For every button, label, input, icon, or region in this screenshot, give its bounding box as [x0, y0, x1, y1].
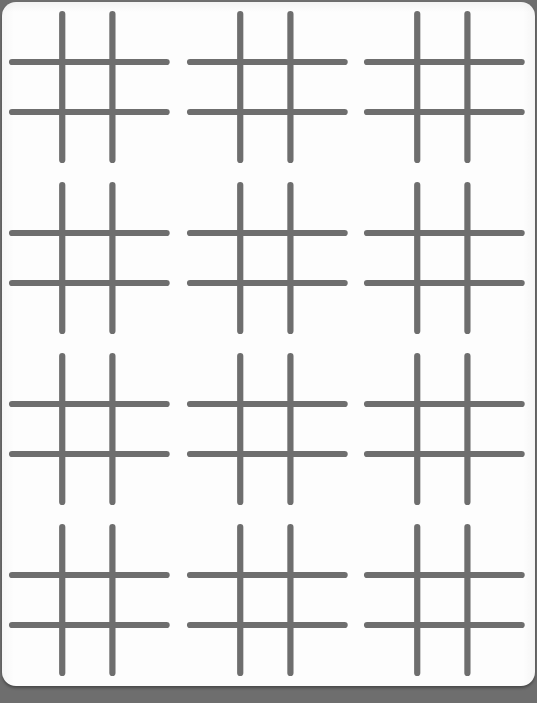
- hash-symbol-strokes: [180, 173, 358, 344]
- hash-symbol: [180, 515, 358, 686]
- hash-grid: [2, 2, 535, 686]
- hash-symbol-strokes: [2, 344, 180, 515]
- document-sheet: [2, 2, 535, 686]
- hash-symbol-strokes: [180, 515, 358, 686]
- hash-symbol-strokes: [357, 173, 535, 344]
- hash-symbol-strokes: [2, 173, 180, 344]
- hash-symbol-strokes: [357, 344, 535, 515]
- hash-symbol-strokes: [180, 2, 358, 173]
- hash-symbol: [357, 173, 535, 344]
- hash-symbol-strokes: [2, 515, 180, 686]
- hash-symbol: [357, 2, 535, 173]
- hash-symbol: [2, 173, 180, 344]
- hash-symbol-strokes: [357, 2, 535, 173]
- hash-symbol-strokes: [180, 344, 358, 515]
- hash-symbol: [2, 2, 180, 173]
- hash-symbol: [180, 2, 358, 173]
- hash-symbol-strokes: [357, 515, 535, 686]
- hash-symbol: [180, 344, 358, 515]
- hash-symbol: [2, 515, 180, 686]
- hash-symbol: [2, 344, 180, 515]
- hash-symbol: [180, 173, 358, 344]
- hash-symbol-strokes: [2, 2, 180, 173]
- hash-symbol: [357, 344, 535, 515]
- hash-symbol: [357, 515, 535, 686]
